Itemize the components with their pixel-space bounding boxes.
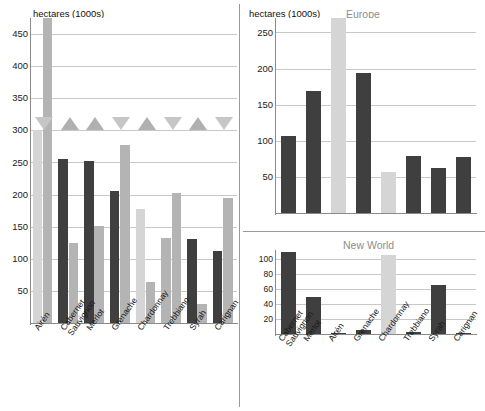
y-axis-line [275,250,276,336]
world-plot-area [31,18,237,323]
bar-europe [331,18,347,213]
bar-europe [381,172,397,213]
gridline [276,259,476,260]
gridline [31,34,237,35]
y-axis-tick-label: 50 [262,172,273,182]
y-axis-tick-label: 20 [263,315,273,324]
bar-world-a [136,209,146,323]
y-axis-tick-label: 100 [12,254,28,264]
triangle-down-icon [164,117,182,130]
europe-plot-area [276,18,476,213]
y-axis-tick-label: 200 [257,64,273,74]
new-world-chart-panel: New World 20406080100CabernetSauvignonMe… [243,232,485,411]
triangle-down-icon [215,117,233,130]
bar-europe [406,156,422,213]
bar-world-a [58,159,68,323]
triangle-up-icon [61,117,79,130]
bar-europe [306,91,322,213]
triangle-down-icon [35,117,53,130]
bar-europe [456,157,472,213]
bar-europe [281,136,297,213]
y-axis-tick-label: 100 [259,255,273,264]
bar-europe [356,73,372,213]
triangle-up-icon [138,117,156,130]
world-chart-panel: hectares (1000s) 50100150200250300350400… [0,0,243,411]
x-axis-line [275,213,477,214]
y-axis-tick-label: 100 [257,136,273,146]
y-axis-tick-label: 350 [12,93,28,103]
europe-chart-panel: hectares (1000s) Europe 50100150200250 [243,0,485,232]
y-axis-tick-label: 50 [17,286,28,296]
gridline [276,32,476,33]
triangle-up-icon [86,117,104,130]
gridline [31,98,237,99]
y-axis-tick-label: 150 [12,222,28,232]
y-axis-tick-label: 450 [12,29,28,39]
y-axis-tick-label: 150 [257,100,273,110]
y-axis-tick-label: 200 [12,190,28,200]
y-axis-tick-label: 250 [257,28,273,38]
y-axis-tick-label: 40 [263,300,273,309]
triangle-up-icon [189,117,207,130]
bar-world-a [33,130,43,323]
bar-world-b [120,145,130,323]
bar-world-a [187,239,197,323]
gridline [276,274,476,275]
y-axis-tick-label: 80 [263,270,273,279]
gridline [31,130,237,131]
y-axis-tick-label: 250 [12,158,28,168]
bar-world-b [43,18,53,323]
y-axis-tick-label: 400 [12,61,28,71]
gridline [276,69,476,70]
y-axis-tick-label: 300 [12,125,28,135]
gridline [31,66,237,67]
y-axis-line [275,18,276,215]
bar-world-a [110,191,120,323]
panel-divider-vertical [239,4,240,407]
bar-world-a [161,238,171,323]
bar-europe [431,168,447,214]
y-axis-line [30,18,31,325]
triangle-down-icon [112,117,130,130]
y-axis-tick-label: 60 [263,285,273,294]
